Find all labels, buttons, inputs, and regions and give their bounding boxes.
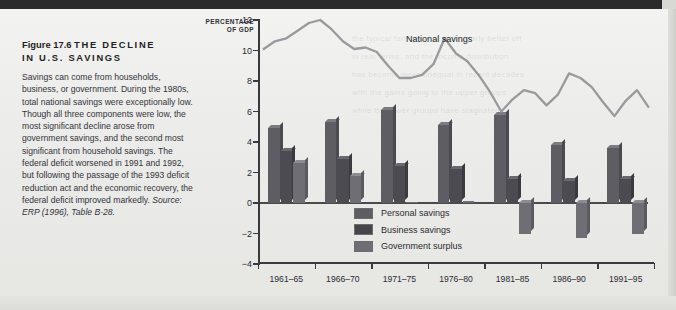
figure-title: Figure 17.6 THE DECLINE IN U.S. SAVINGS: [22, 38, 194, 64]
plot-area: −4−2024681012 1961–651966–701971–751976–…: [258, 20, 654, 264]
page-header-bar-tail: [662, 0, 676, 9]
y-axis-tick-label: 6: [247, 107, 252, 117]
chart-figure: PERCENTAGE OF GDP −4−2024681012 1961–651…: [196, 16, 664, 296]
legend-label: Business savings: [381, 225, 451, 235]
source-publication: ERP: [22, 207, 39, 217]
legend-item-business-savings: Business savings: [354, 223, 462, 237]
x-axis-tick: [654, 263, 655, 269]
x-axis-tick-label: 1976–80: [439, 274, 472, 284]
x-axis-tick-label: 1991–95: [609, 274, 642, 284]
y-axis-tick-label: 8: [247, 76, 252, 86]
figure-description: Savings can come from households, busine…: [22, 71, 194, 219]
source-reference: (1996), Table B-28.: [42, 207, 115, 217]
x-axis-tick-label: 1986–90: [552, 274, 585, 284]
x-axis-tick-label: 1971–75: [383, 274, 416, 284]
y-axis-tick-label: 0: [247, 198, 252, 208]
y-axis-tick-label: −2: [242, 229, 252, 239]
figure-description-text: Savings can come from households, busine…: [22, 72, 193, 205]
x-axis-tick-label: 1961–65: [270, 274, 303, 284]
legend-swatch: [354, 241, 373, 252]
legend-item-personal-savings: Personal savings: [354, 206, 462, 220]
source-prefix: Source:: [152, 195, 182, 205]
y-axis-tick-label: 10: [242, 46, 252, 56]
figure-title-line1: THE DECLINE: [74, 39, 155, 50]
legend-swatch: [354, 224, 373, 235]
y-axis-tick-label: 12: [242, 15, 252, 25]
x-axis-tick-label: 1981–85: [496, 274, 529, 284]
page-bottom-edge: [0, 296, 676, 310]
y-axis-tick-label: 4: [247, 137, 252, 147]
y-axis-tick-label: 2: [247, 168, 252, 178]
figure-title-line2: IN U.S. SAVINGS: [22, 52, 122, 63]
page-header-bar: [0, 0, 676, 9]
figure-caption-panel: Figure 17.6 THE DECLINE IN U.S. SAVINGS …: [22, 38, 194, 219]
national-savings-label: National savings: [406, 34, 472, 44]
legend-label: Personal savings: [381, 208, 450, 218]
x-axis-tick-label: 1966–70: [326, 274, 359, 284]
y-axis-tick-label: −4: [242, 259, 252, 269]
legend-swatch: [354, 208, 373, 219]
figure-number: Figure 17.6: [22, 39, 72, 50]
legend-item-government-surplus: Government surplus: [354, 239, 462, 253]
page-right-edge: [668, 9, 676, 310]
page-background: the typical family is not that clearly b…: [0, 0, 676, 310]
legend-label: Government surplus: [381, 241, 462, 251]
chart-legend: Personal savingsBusiness savingsGovernme…: [354, 206, 462, 256]
y-axis-title-line2: OF GDP: [196, 26, 254, 34]
